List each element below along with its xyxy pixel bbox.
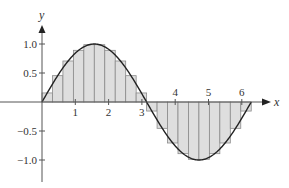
- x-tick-label-3: 3: [139, 106, 145, 118]
- y-tick-label-neg-0.5: −0.5: [17, 125, 37, 137]
- riemann-rectangle: [94, 45, 104, 102]
- riemann-rectangle: [157, 102, 167, 128]
- riemann-rectangle: [199, 102, 209, 159]
- y-tick-label-1.0: 1.0: [23, 38, 37, 50]
- riemann-rectangle: [188, 102, 198, 159]
- riemann-rectangle: [84, 45, 94, 102]
- riemann-rectangle: [230, 102, 240, 128]
- x-tick-label-2: 2: [106, 106, 112, 118]
- riemann-rectangle: [209, 102, 219, 154]
- x-tick-label-6: 6: [239, 86, 245, 98]
- x-axis-label: x: [273, 95, 280, 109]
- y-axis-label: y: [38, 8, 45, 22]
- riemann-rectangle: [52, 76, 62, 102]
- riemann-rectangle: [126, 76, 136, 102]
- y-axis-arrow-icon: [39, 25, 46, 33]
- riemann-rectangle: [115, 61, 125, 102]
- x-tick-label-1: 1: [73, 106, 79, 118]
- x-tick-label-4: 4: [172, 86, 178, 98]
- riemann-rectangle: [73, 50, 83, 102]
- x-axis-arrow-icon: [262, 99, 271, 106]
- y-tick-label-neg-1.0: −1.0: [17, 154, 37, 166]
- y-tick-label-0.5: 0.5: [23, 67, 37, 79]
- x-tick-label-5: 5: [206, 86, 212, 98]
- riemann-rectangle: [178, 102, 188, 154]
- riemann-rectangle: [220, 102, 230, 143]
- riemann-sum-chart: x y 1 2 3 4 5 6 1.0 0.5 −0.5 −1.0: [0, 0, 289, 188]
- riemann-rectangle: [168, 102, 178, 143]
- riemann-rectangle: [105, 50, 115, 102]
- riemann-rectangle: [63, 61, 73, 102]
